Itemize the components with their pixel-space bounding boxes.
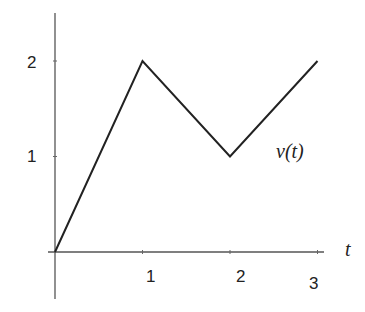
y-tick-label-1: 1: [27, 147, 36, 166]
chart: 2 1 1 2 3 t v(t): [0, 0, 365, 312]
curve-label: v(t): [276, 140, 304, 163]
x-tick-label-1: 1: [146, 267, 155, 286]
y-tick-label-2: 2: [27, 53, 36, 72]
line-chart: 2 1 1 2 3 t v(t): [0, 0, 365, 312]
x-tick-label-3: 3: [309, 274, 318, 293]
x-tick-label-2: 2: [236, 267, 245, 286]
x-axis-label: t: [345, 238, 351, 260]
